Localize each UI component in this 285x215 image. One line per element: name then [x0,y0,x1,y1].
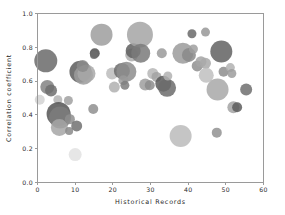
x-tick-label: 60 [259,186,267,193]
x-tick-label: 0 [35,186,39,193]
y-tick-label: 0.2 [22,145,33,152]
bubble-point [88,104,98,114]
bubble-point [163,72,172,81]
y-tick-label: 1.0 [22,10,33,17]
chart-canvas: 0.00.20.40.60.81.00102030405060Historica… [0,0,285,215]
y-tick-label: 0.4 [22,111,33,118]
bubble-point [91,24,113,46]
bubble-point [64,96,73,105]
bubble-point [45,84,57,96]
bubble-point [145,80,155,90]
bubble-point [200,58,211,69]
bubble-point [35,95,45,105]
bubble-point [189,44,198,53]
x-tick-label: 50 [222,186,230,193]
bubble-point [210,41,232,63]
bubble-point [127,22,153,48]
bubble-point [240,84,252,96]
bubble-point [109,82,120,93]
bubble-point [232,102,242,112]
bubble-point [201,28,210,37]
x-tick-label: 20 [109,186,117,193]
bubble-point [158,79,176,97]
bubble-series [34,22,252,161]
y-tick-label: 0.8 [22,44,33,51]
bubble-point [69,148,82,161]
y-axis-title: Correlation coefficient [5,54,13,142]
bubble-point [90,51,98,59]
bubble-point [131,44,150,63]
bubble-point [157,48,167,58]
bubble-point [187,29,196,38]
scatter-chart-figure: 0.00.20.40.60.81.00102030405060Historica… [0,0,285,215]
x-tick-label: 10 [71,186,79,193]
bubble-point [120,81,129,90]
bubble-point [170,125,192,147]
y-tick-label: 0.6 [22,77,33,84]
x-tick-label: 40 [184,186,192,193]
x-tick-label: 30 [146,186,154,193]
x-axis-title: Historical Records [115,198,186,206]
bubble-point [51,119,68,136]
bubble-point [71,120,82,131]
y-tick-label: 0.0 [22,179,33,186]
bubble-point [77,60,89,72]
bubble-point [207,79,229,101]
bubble-point [212,128,222,138]
bubble-point [227,69,236,78]
